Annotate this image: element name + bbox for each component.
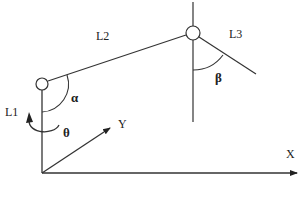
label-theta: θ xyxy=(63,126,70,139)
label-axis-x: X xyxy=(286,148,295,160)
angle-beta-arc xyxy=(193,55,223,70)
link-l3 xyxy=(199,37,256,74)
link-l2 xyxy=(48,35,186,81)
label-l1: L1 xyxy=(5,106,18,118)
label-beta: β xyxy=(215,71,222,84)
rotation-theta-arrowhead xyxy=(26,112,33,123)
diagram-drawing xyxy=(0,0,300,198)
label-l2: L2 xyxy=(96,30,109,42)
label-l3: L3 xyxy=(229,28,242,40)
kinematic-diagram: L1 L2 L3 α β θ Y X xyxy=(0,0,300,198)
y-axis xyxy=(42,128,110,173)
joint-elbow xyxy=(186,26,200,40)
label-alpha: α xyxy=(71,91,78,104)
label-axis-y: Y xyxy=(118,118,127,130)
joint-base xyxy=(36,78,48,90)
rotation-theta-arrow xyxy=(29,119,59,132)
